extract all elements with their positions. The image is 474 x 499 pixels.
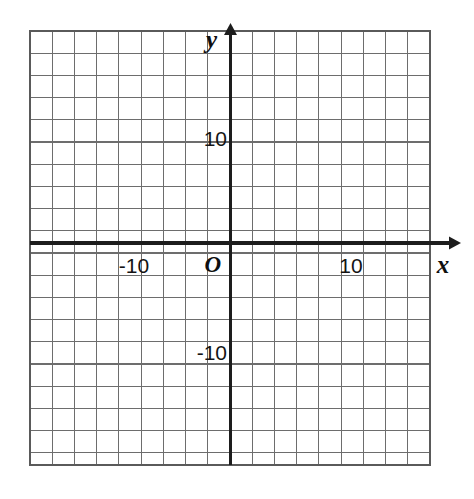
x-tick-label-positive-10: 10 <box>339 254 362 277</box>
x-tick-label-negative-10: -10 <box>119 254 149 277</box>
x-axis-label: x <box>436 251 450 278</box>
y-tick-label-negative-10: -10 <box>197 341 227 364</box>
coordinate-plane-svg: y x O 10 -10 10 -10 <box>0 0 474 499</box>
origin-label: O <box>204 252 221 277</box>
y-tick-label-positive-10: 10 <box>204 127 227 150</box>
coordinate-plane-figure: y x O 10 -10 10 -10 <box>0 0 474 499</box>
y-axis-label: y <box>203 26 218 53</box>
